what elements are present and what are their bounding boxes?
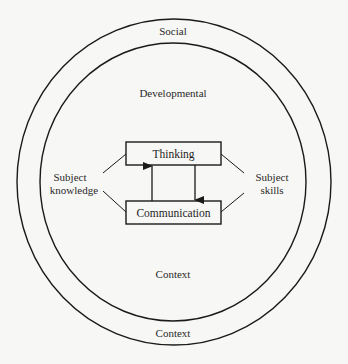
inner-ring-top-label: Developmental — [139, 87, 206, 99]
left-connector-top — [103, 154, 126, 173]
communication-label: Communication — [136, 207, 210, 219]
outer-ring-top-label: Social — [159, 25, 187, 37]
thinking-label: Thinking — [152, 148, 194, 161]
subject-knowledge-line2: knowledge — [50, 184, 98, 196]
inner-ring-bottom-label: Context — [156, 268, 191, 280]
outer-ring-bottom-label: Context — [156, 327, 191, 339]
left-connector-bottom — [103, 191, 126, 212]
right-connector-top — [221, 154, 244, 173]
right-connector-bottom — [221, 193, 244, 212]
subject-skills-line1: Subject — [256, 171, 289, 183]
diagram-canvas: Social Developmental Context Context Thi… — [0, 0, 348, 364]
subject-skills-line2: skills — [260, 184, 283, 196]
subject-knowledge-line1: Subject — [54, 171, 87, 183]
